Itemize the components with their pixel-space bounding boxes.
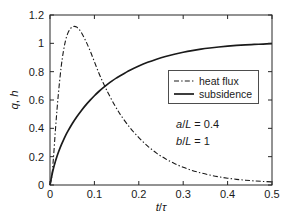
x-tick-label: 0 (47, 188, 53, 200)
annotation-b-over-L: b/L = 1 (176, 135, 210, 147)
y-tick-label: 0.2 (29, 151, 44, 163)
x-axis-title-tau: τ (162, 201, 167, 213)
annotation-a-over-L: a/L = 0.4 (176, 118, 219, 130)
y-axis-title-h: h (8, 90, 20, 96)
y-tick-label: 1 (38, 37, 44, 49)
x-tick-label: 0.3 (176, 188, 191, 200)
annotation-value-1: = 0.4 (191, 118, 219, 130)
y-tick-label: 0.8 (29, 66, 44, 78)
y-axis-title: q, h (8, 90, 20, 109)
x-tick-label: 0.4 (220, 188, 235, 200)
annotation-value-2: = 1 (191, 135, 210, 147)
x-axis-title: t/τ (156, 201, 167, 213)
line-chart: 00.10.20.30.40.5 00.20.40.60.811.2 t/τ q… (0, 0, 289, 220)
x-axis-tick-labels: 00.10.20.30.40.5 (47, 188, 280, 200)
x-tick-label: 0.1 (87, 188, 102, 200)
y-tick-label: 0 (38, 179, 44, 191)
chart-figure: 00.10.20.30.40.5 00.20.40.60.811.2 t/τ q… (0, 0, 289, 220)
legend[interactable]: heat flux subsidence (169, 71, 259, 104)
x-tick-label: 0.5 (264, 188, 279, 200)
legend-label-heat-flux: heat flux (199, 75, 239, 87)
y-tick-label: 0.6 (29, 94, 44, 106)
y-tick-label: 1.2 (29, 9, 44, 21)
x-tick-label: 0.2 (131, 188, 146, 200)
y-tick-label: 0.4 (29, 122, 44, 134)
legend-label-subsidence: subsidence (199, 88, 252, 100)
y-axis-tick-labels: 00.20.40.60.811.2 (29, 9, 44, 191)
